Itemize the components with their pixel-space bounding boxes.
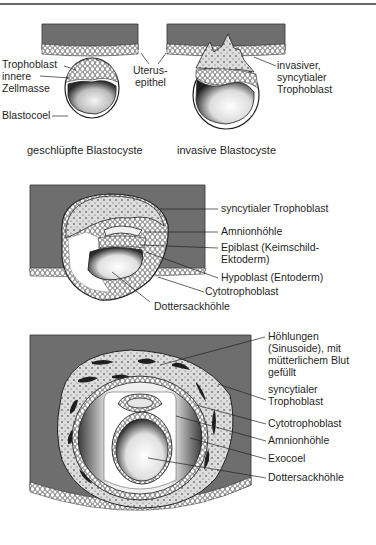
- label-inner-cell-mass-2: Zellmasse: [2, 83, 50, 95]
- label-c-syncytial-1: syncytialer: [268, 384, 318, 396]
- label-b-amnion-cavity: Amnionhöhle: [221, 226, 282, 238]
- label-uterus-epithel-2: epithel: [135, 77, 166, 89]
- implanted-embryo-c: [57, 350, 233, 508]
- label-c-lacunae-1: Höhlungen: [268, 331, 319, 343]
- label-b-yolk-sac-cavity: Dottersackhöhle: [154, 301, 230, 313]
- label-inner-cell-mass-1: innere: [2, 71, 31, 83]
- label-invasive-trophoblast-2: syncytialer: [277, 72, 327, 84]
- label-c-lacunae-2: (Sinusoide), mit: [268, 343, 341, 355]
- label-c-lacunae-3: mütterlichem Blut: [268, 355, 349, 367]
- label-c-exocoelom: Exocoel: [268, 453, 305, 465]
- uterus-epithelium-left: [42, 24, 138, 56]
- implanting-embryo-b: [62, 194, 168, 300]
- label-c-lacunae-4: gefüllt: [268, 367, 296, 379]
- label-invasive-trophoblast-1: invasiver,: [277, 60, 321, 72]
- label-trophoblast: Trophoblast: [2, 59, 57, 71]
- label-invasive-trophoblast-3: Trophoblast: [277, 84, 332, 96]
- caption-invasive-blastocyst: invasive Blastocyste: [177, 144, 276, 156]
- label-b-epiblast-1: Epiblast (Keimschild-: [221, 242, 319, 254]
- label-c-syncytial-2: Trophoblast: [268, 396, 323, 408]
- label-c-cytotrophoblast: Cytotrophoblast: [268, 418, 342, 430]
- label-b-syncytial-trophoblast: syncytialer Trophoblast: [221, 203, 328, 215]
- caption-hatched-blastocyst: geschlüpfte Blastocyste: [27, 144, 143, 156]
- label-b-cytotrophoblast: Cytotrophoblast: [205, 286, 279, 298]
- label-blastocoel: Blastocoel: [2, 110, 50, 122]
- hatched-blastocyst: [65, 58, 119, 118]
- label-c-amnion-cavity: Amnionhöhle: [268, 435, 329, 447]
- label-uterus-epithel-1: Uterus-: [133, 65, 167, 77]
- label-b-epiblast-2: Ektoderm): [221, 254, 269, 266]
- label-b-hypoblast: Hypoblast (Entoderm): [221, 272, 323, 284]
- label-c-yolk-sac-cavity: Dottersackhöhle: [268, 472, 344, 484]
